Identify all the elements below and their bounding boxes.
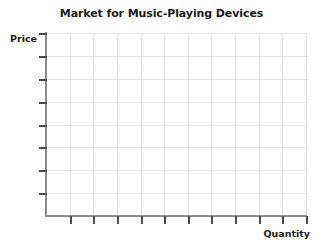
- y-axis-tick: [39, 193, 47, 195]
- chart-figure: Market for Music-Playing Devices Price Q…: [0, 0, 323, 249]
- gridline-horizontal: [46, 125, 306, 126]
- x-axis-tick: [282, 216, 284, 224]
- x-axis-tick: [164, 216, 166, 224]
- gridline-horizontal: [46, 193, 306, 194]
- gridline-horizontal: [46, 56, 306, 57]
- x-axis-line: [45, 215, 307, 217]
- gridlines: [46, 33, 306, 216]
- y-axis-tick: [39, 102, 47, 104]
- x-axis-tick: [259, 216, 261, 224]
- y-axis-tick: [39, 147, 47, 149]
- x-axis-tick: [141, 216, 143, 224]
- gridline-vertical: [306, 33, 307, 216]
- x-axis-tick: [211, 216, 213, 224]
- gridline-horizontal: [46, 79, 306, 80]
- x-axis-label: Quantity: [263, 228, 310, 239]
- x-axis-tick: [188, 216, 190, 224]
- x-axis-tick: [117, 216, 119, 224]
- gridline-horizontal: [46, 33, 306, 34]
- x-axis-tick: [235, 216, 237, 224]
- chart-title: Market for Music-Playing Devices: [0, 7, 323, 20]
- gridline-horizontal: [46, 147, 306, 148]
- x-axis-tick: [70, 216, 72, 224]
- y-axis-tick: [39, 56, 47, 58]
- y-axis-label: Price: [10, 33, 37, 44]
- x-axis-tick: [93, 216, 95, 224]
- gridline-horizontal: [46, 102, 306, 103]
- y-axis-tick: [39, 33, 47, 35]
- gridline-horizontal: [46, 170, 306, 171]
- x-axis-tick: [306, 216, 308, 224]
- plot-area: [46, 33, 306, 216]
- y-axis-tick: [39, 79, 47, 81]
- y-axis-tick: [39, 170, 47, 172]
- y-axis-tick: [39, 125, 47, 127]
